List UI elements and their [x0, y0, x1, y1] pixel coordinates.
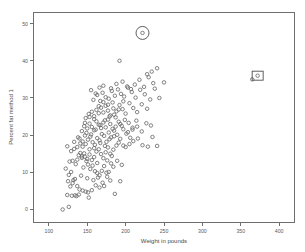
data-point: [107, 97, 111, 101]
data-point: [64, 167, 68, 171]
data-point: [113, 94, 117, 98]
data-point: [90, 110, 94, 114]
data-point: [69, 185, 73, 189]
data-point: [105, 159, 109, 163]
data-point: [85, 177, 89, 181]
data-point: [88, 153, 92, 157]
data-point: [123, 118, 127, 122]
data-point: [117, 141, 121, 145]
data-point: [158, 96, 162, 100]
data-point: [112, 165, 116, 169]
annotation-circle-outlier[interactable]: [136, 26, 149, 39]
data-point: [112, 148, 116, 152]
data-point: [92, 178, 96, 182]
data-point: [135, 125, 139, 129]
data-point: [116, 88, 120, 92]
data-point: [149, 124, 153, 128]
data-point: [121, 107, 125, 111]
data-point: [118, 103, 122, 107]
data-point: [138, 88, 142, 92]
data-point: [132, 139, 136, 143]
data-point: [72, 140, 76, 144]
data-point: [153, 87, 157, 91]
data-point: [136, 137, 140, 141]
data-point: [102, 111, 106, 115]
y-tick-label: 10: [22, 169, 28, 175]
data-point: [84, 116, 88, 120]
data-point: [67, 173, 71, 177]
data-point: [102, 164, 106, 168]
data-point: [84, 142, 88, 146]
data-point: [138, 78, 142, 82]
data-point: [66, 145, 70, 149]
data-point: [89, 167, 93, 171]
data-point: [74, 162, 78, 166]
data-point: [87, 196, 91, 200]
data-points-layer: [61, 31, 259, 211]
data-point: [105, 140, 109, 144]
y-tick-label: 20: [22, 132, 28, 138]
x-axis-title: Weight in pounds: [141, 238, 187, 244]
data-point: [105, 171, 109, 175]
data-point: [76, 158, 80, 162]
data-point: [92, 98, 96, 102]
data-point: [118, 59, 122, 63]
data-point: [143, 93, 147, 97]
data-point: [155, 144, 159, 148]
plot-frame: [34, 13, 295, 223]
data-point: [81, 145, 85, 149]
data-point: [124, 112, 128, 116]
y-tick-label: 40: [22, 58, 28, 64]
data-point: [151, 135, 155, 139]
data-point: [150, 70, 154, 74]
data-point: [66, 179, 70, 183]
data-point: [83, 121, 87, 125]
data-point: [142, 85, 146, 89]
data-point: [76, 145, 80, 149]
data-point: [115, 82, 119, 86]
data-point: [115, 159, 119, 163]
data-point: [104, 151, 108, 155]
data-point: [112, 107, 116, 111]
data-point: [98, 186, 102, 190]
data-point: [86, 163, 90, 167]
data-point: [92, 146, 96, 150]
data-point: [85, 157, 89, 161]
data-point: [113, 192, 117, 196]
data-point: [122, 100, 126, 104]
data-point: [102, 84, 106, 88]
data-point: [118, 179, 122, 183]
y-axis-ticks: 01020304050: [22, 21, 33, 213]
data-point: [135, 110, 139, 114]
data-point: [100, 169, 104, 173]
data-point: [98, 86, 102, 90]
data-point: [86, 191, 90, 195]
x-tick-label: 200: [121, 228, 130, 234]
data-point: [145, 72, 149, 76]
data-point: [101, 91, 105, 95]
data-point: [106, 109, 110, 113]
data-point: [91, 164, 95, 168]
data-point: [152, 81, 156, 85]
y-tick-label: 0: [25, 206, 28, 212]
data-point: [80, 129, 84, 133]
data-point: [76, 184, 80, 188]
data-point: [118, 137, 122, 141]
data-point: [155, 67, 159, 71]
data-point: [128, 101, 132, 105]
data-point: [67, 205, 71, 209]
data-point: [120, 163, 124, 167]
data-point: [89, 88, 93, 92]
data-point: [89, 133, 93, 137]
data-point: [127, 121, 131, 125]
data-point: [99, 152, 103, 156]
x-tick-label: 350: [236, 228, 245, 234]
data-point: [121, 80, 125, 84]
plot-canvas: 100150200250300350400 01020304050 Weight…: [0, 0, 305, 252]
data-point: [101, 181, 105, 185]
data-point: [134, 96, 138, 100]
data-point: [82, 166, 86, 170]
data-point: [103, 144, 107, 148]
data-point: [66, 193, 70, 197]
annotations-layer: [136, 26, 263, 80]
